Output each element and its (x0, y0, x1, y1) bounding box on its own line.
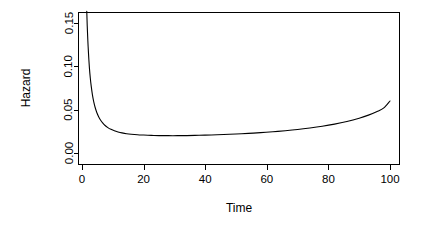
x-tick-label: 40 (199, 173, 212, 185)
y-tick-label: 0.15 (63, 12, 75, 34)
chart-figure: 020406080100 0.000.050.100.15 Time Hazar… (0, 0, 424, 231)
hazard-plot-svg: 020406080100 0.000.050.100.15 Time Hazar… (0, 0, 424, 231)
plot-frame-group (79, 13, 400, 165)
y-tick-label: 0.05 (63, 98, 75, 120)
y-axis-ticks (74, 24, 79, 154)
x-tick-label: 60 (260, 173, 273, 185)
x-tick-label: 0 (79, 173, 85, 185)
x-tick-label: 100 (380, 173, 399, 185)
hazard-curve (87, 11, 390, 135)
y-tick-label: 0.00 (63, 142, 75, 164)
x-axis-ticks (83, 165, 391, 170)
x-tick-label: 80 (322, 173, 335, 185)
x-axis-tick-labels: 020406080100 (79, 173, 400, 185)
data-series-group (87, 11, 390, 135)
x-tick-label: 20 (137, 173, 150, 185)
x-axis-title: Time (226, 201, 253, 215)
y-tick-label: 0.10 (63, 55, 75, 77)
plot-panel-border (79, 13, 400, 165)
y-axis-title: Hazard (19, 69, 33, 108)
y-axis-tick-labels: 0.000.050.100.15 (63, 12, 75, 164)
